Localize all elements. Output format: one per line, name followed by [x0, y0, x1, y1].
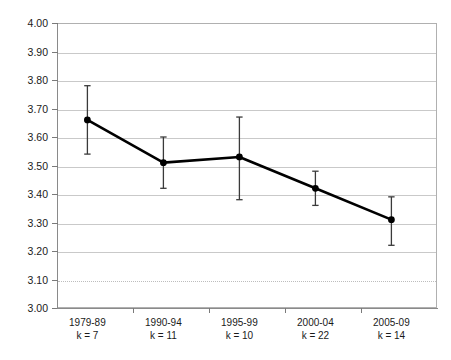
gridline	[58, 138, 436, 139]
gridline	[58, 110, 436, 111]
x-axis-tick	[361, 308, 362, 313]
y-axis-tick	[52, 251, 58, 252]
y-axis-tick-label: 3.40	[0, 189, 48, 199]
x-category-period: 1990-94	[145, 317, 182, 328]
gridline	[58, 252, 436, 253]
y-axis-tick-label: 3.80	[0, 75, 48, 85]
x-category-period: 2000-04	[297, 317, 334, 328]
gridline	[58, 53, 436, 54]
y-axis-tick	[52, 280, 58, 281]
gridline	[58, 281, 436, 282]
y-axis-tick	[52, 52, 58, 53]
gridline	[58, 195, 436, 196]
gridline	[58, 81, 436, 82]
x-axis-tick	[285, 308, 286, 313]
y-axis-tick-label: 3.10	[0, 275, 48, 285]
line-chart: 4.003.903.803.703.603.503.403.303.203.10…	[0, 0, 451, 360]
x-category-period: 1995-99	[221, 317, 258, 328]
x-category-period: 2005-09	[373, 317, 410, 328]
y-axis-tick	[52, 194, 58, 195]
y-axis-tick	[52, 166, 58, 167]
y-axis-tick	[52, 109, 58, 110]
y-axis-tick-label: 3.00	[0, 303, 48, 313]
x-axis-tick	[133, 308, 134, 313]
x-axis-line	[57, 308, 438, 309]
x-category-period: 1979-89	[69, 317, 106, 328]
plot-area	[57, 23, 437, 308]
y-axis-tick	[52, 137, 58, 138]
y-axis-tick	[52, 223, 58, 224]
gridline	[58, 224, 436, 225]
x-axis-tick	[209, 308, 210, 313]
y-axis-tick	[52, 80, 58, 81]
y-axis-tick-label: 3.90	[0, 47, 48, 57]
y-axis-tick-label: 3.30	[0, 218, 48, 228]
x-axis-category-label: 2005-09k = 14	[346, 316, 436, 342]
y-axis-tick	[52, 23, 58, 24]
y-axis-tick-label: 3.60	[0, 132, 48, 142]
y-axis-tick-label: 3.20	[0, 246, 48, 256]
y-axis-tick-label: 3.50	[0, 161, 48, 171]
gridline	[58, 167, 436, 168]
y-axis-tick-label: 4.00	[0, 18, 48, 28]
y-axis-tick-label: 3.70	[0, 104, 48, 114]
x-category-k-count: k = 14	[346, 329, 436, 342]
